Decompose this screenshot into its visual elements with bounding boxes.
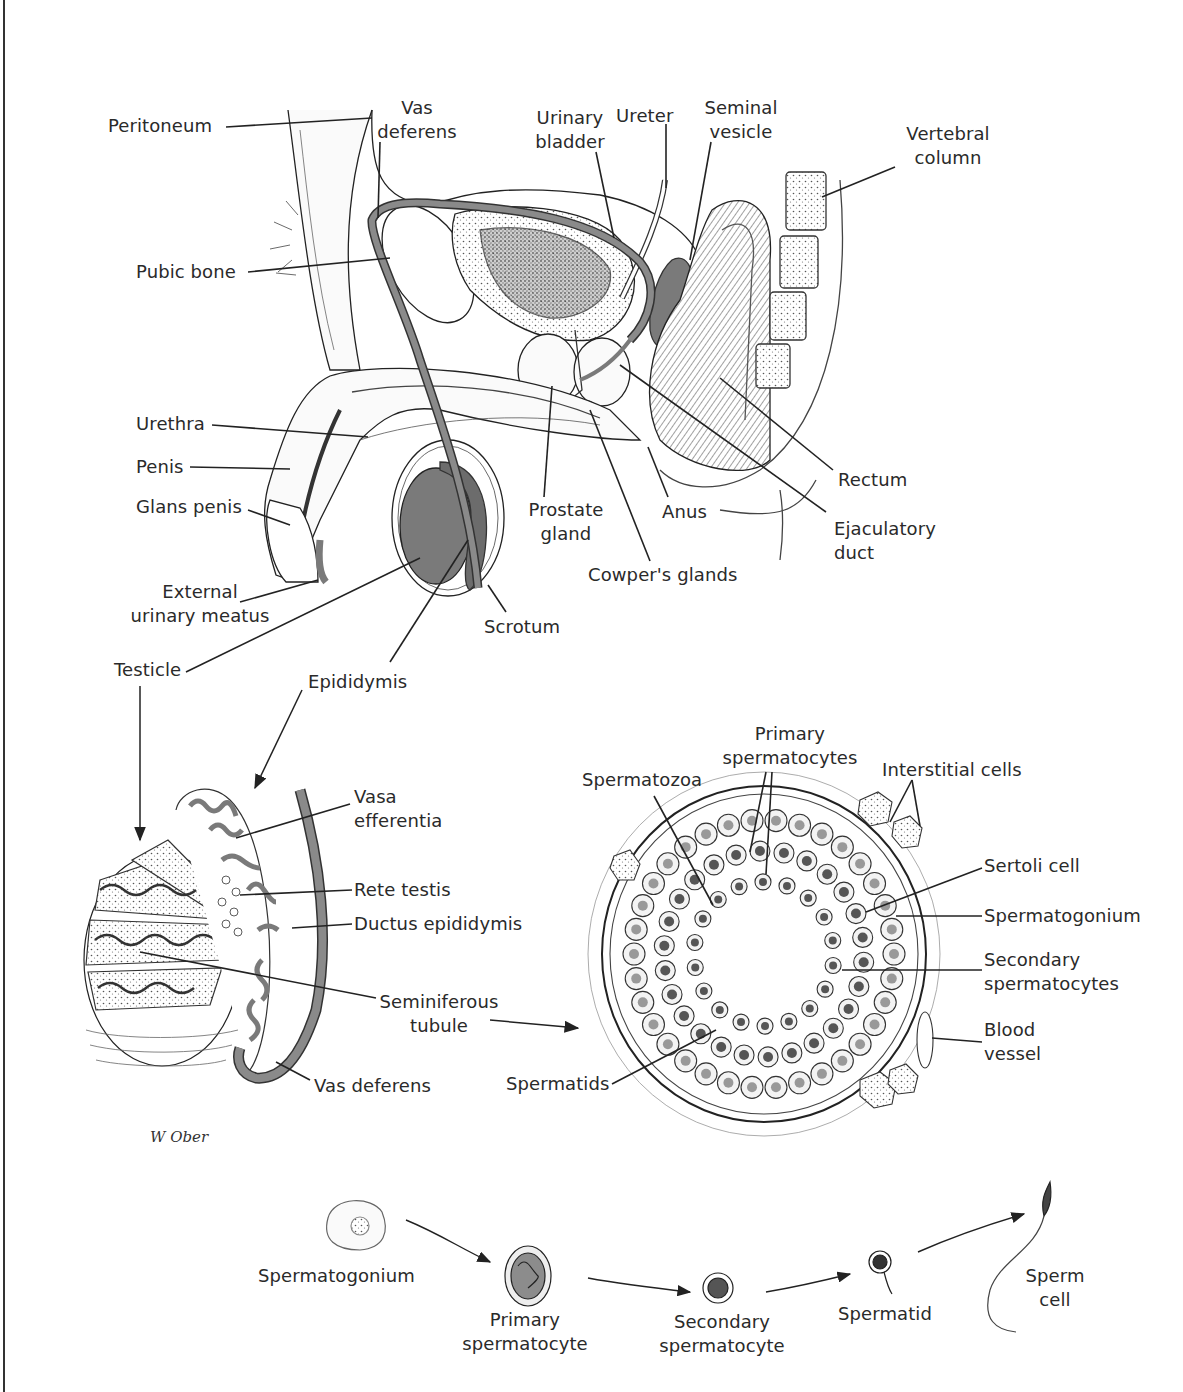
label-spermatogonium: Spermatogonium [984,904,1141,928]
label-interstitial-cells: Interstitial cells [882,758,1022,782]
label-anus: Anus [662,500,707,524]
label-seminal-vesicle: Seminal vesicle [695,96,787,144]
label-vertebral-column: Vertebral column [888,122,1008,170]
label-sperm-cell: Sperm cell [1018,1264,1092,1312]
label-secondary-spermatocyte: Secondary spermatocyte [654,1310,790,1358]
label-urinary-bladder: Urinary bladder [525,106,615,154]
label-epididymis: Epididymis [308,670,407,694]
label-spermatozoa: Spermatozoa [582,768,702,792]
leader-line-vertebral-column [822,167,895,197]
label-pubic-bone: Pubic bone [136,260,236,284]
label-ductus-epididymis: Ductus epididymis [354,912,522,936]
label-glans-penis: Glans penis [136,495,242,519]
label-testicle: Testicle [114,658,181,682]
label-ejaculatory-duct: Ejaculatory duct [834,517,936,565]
label-secondary-spermatocytes: Secondary spermatocytes [984,948,1119,996]
label-spermatids: Spermatids [506,1072,609,1096]
label-blood-vessel: Blood vessel [984,1018,1041,1066]
label-prostate-gland: Prostate gland [520,498,612,546]
label-cowpers-glands: Cowper's glands [588,563,737,587]
label-external-urinary-meatus: External urinary meatus [120,580,280,628]
label-spermatid: Spermatid [838,1302,932,1326]
label-peritoneum: Peritoneum [108,114,212,138]
label-ureter: Ureter [616,104,673,128]
leader-line-scrotum [488,585,506,612]
label-penis: Penis [136,455,184,479]
label-rete-testis: Rete testis [354,878,451,902]
label-vasa-efferentia: Vasa efferentia [354,785,442,833]
leader-line-blood-vessel [932,1038,982,1042]
label-rectum: Rectum [838,468,907,492]
leader-line-anus [648,447,668,497]
testis-section-drawing [84,789,323,1078]
label-vas-deferens: Vas deferens [357,96,477,144]
label-primary-spermatocytes: Primary spermatocytes [710,722,870,770]
label-scrotum: Scrotum [484,615,560,639]
seminiferous-tubule-cross-section-drawing [588,772,940,1136]
label-urethra: Urethra [136,412,205,436]
label-vas-deferens-2: Vas deferens [314,1074,431,1098]
label-sertoli-cell: Sertoli cell [984,854,1080,878]
label-primary-spermatocyte: Primary spermatocyte [460,1308,590,1356]
label-seminiferous-tubule: Seminiferous tubule [376,990,502,1038]
artist-signature: W Ober [150,1128,208,1146]
anatomy-illustration [0,0,1183,1392]
label-spermatogonium: Spermatogonium [258,1264,415,1288]
leader-line-vasa-efferentia [236,804,350,838]
